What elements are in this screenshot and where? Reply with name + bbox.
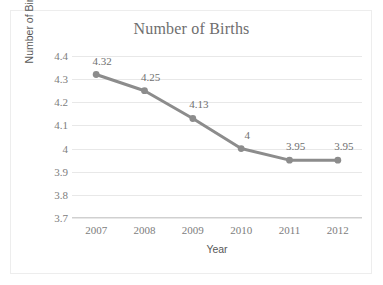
data-point-label: 4.13 <box>189 98 208 110</box>
data-point-marker <box>238 145 245 152</box>
y-tick-label: 4.1 <box>24 119 68 131</box>
data-point-marker <box>93 71 100 78</box>
y-axis-tick-labels: 4.44.34.24.143.93.83.7 <box>22 56 68 218</box>
data-point-marker <box>286 157 293 164</box>
x-tick-label: 2012 <box>310 224 366 236</box>
y-tick-label: 4 <box>24 143 68 155</box>
y-tick-label: 4.3 <box>24 73 68 85</box>
series-line-chart <box>72 56 362 218</box>
plot-area: 4.324.254.1343.953.95 <box>72 56 362 218</box>
y-tick-label: 4.4 <box>24 50 68 62</box>
y-tick-label: 3.7 <box>24 212 68 224</box>
data-point-label: 3.95 <box>286 140 305 152</box>
chart-title: Number of Births <box>0 20 383 38</box>
data-point-label: 4 <box>244 129 250 141</box>
y-tick-label: 4.2 <box>24 96 68 108</box>
data-point-label: 4.32 <box>93 55 112 67</box>
data-point-marker <box>189 115 196 122</box>
y-tick-label: 3.9 <box>24 166 68 178</box>
gridline <box>72 218 362 219</box>
data-point-marker <box>334 157 341 164</box>
x-axis-tick-labels: 200720082009201020112012 <box>72 224 362 238</box>
data-point-label: 4.25 <box>141 71 160 83</box>
y-tick-label: 3.8 <box>24 189 68 201</box>
x-axis-title: Year <box>72 243 362 255</box>
data-point-label: 3.95 <box>334 140 353 152</box>
data-point-marker <box>141 87 148 94</box>
chart-screenshot: Number of Births Number of Births (in mi… <box>0 0 383 285</box>
